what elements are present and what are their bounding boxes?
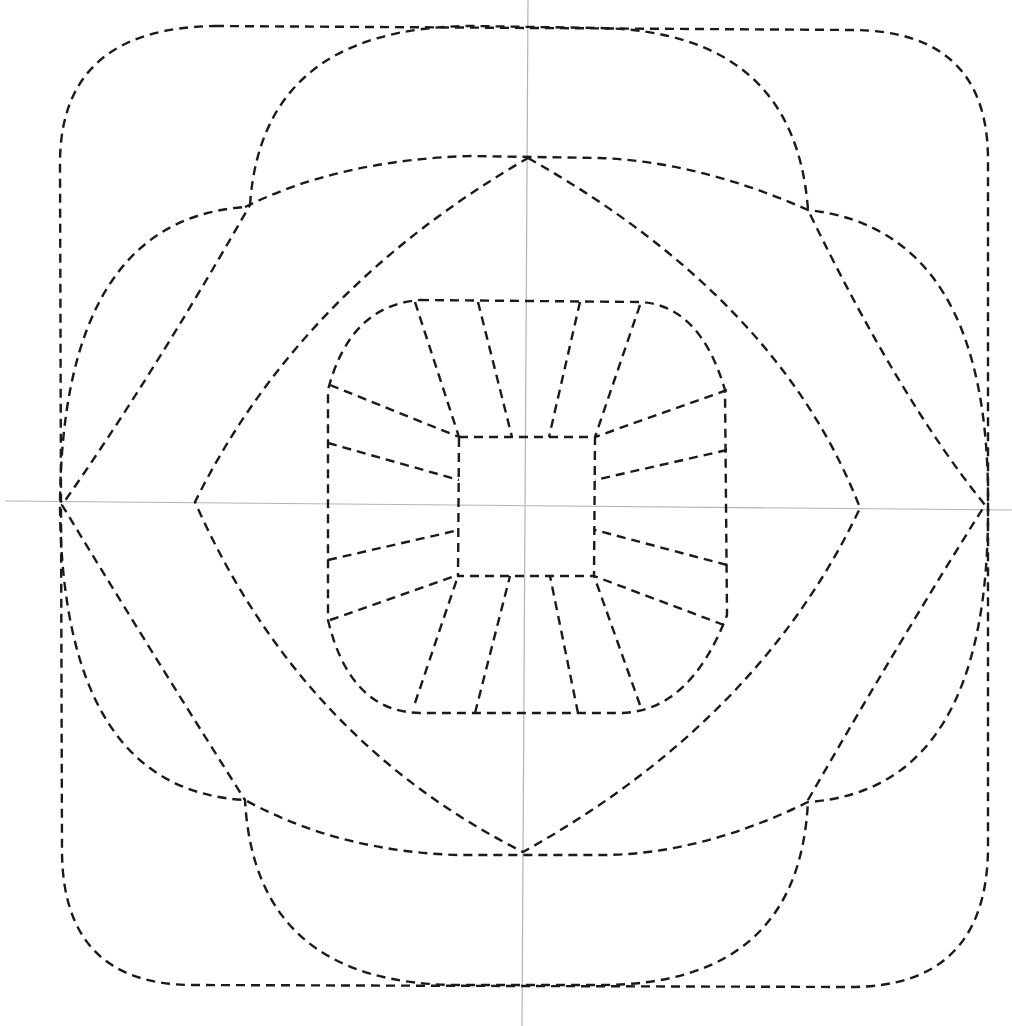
lens-star (195, 158, 860, 852)
spoke-line (594, 576, 640, 705)
spoke-line (478, 302, 512, 437)
spoke-line (550, 576, 578, 713)
spoke-line (415, 576, 458, 703)
vertical-axis (522, 0, 528, 1026)
spoke-line (328, 530, 459, 560)
spoke-line (595, 450, 727, 480)
spoke-line (595, 530, 727, 565)
spoke-line (594, 576, 724, 625)
spoke-line (328, 443, 459, 480)
spoke-line (475, 576, 510, 713)
spoke-line (330, 385, 459, 437)
shape-group (60, 26, 988, 987)
spoke-line (595, 390, 727, 437)
spoke-line (549, 302, 580, 437)
horizontal-axis (5, 501, 1012, 510)
spoke-line (595, 305, 640, 437)
diagram-canvas (0, 0, 1012, 1026)
outer-rounded-square (60, 26, 988, 987)
spoke-line (330, 575, 458, 620)
spoke-line (415, 302, 459, 437)
